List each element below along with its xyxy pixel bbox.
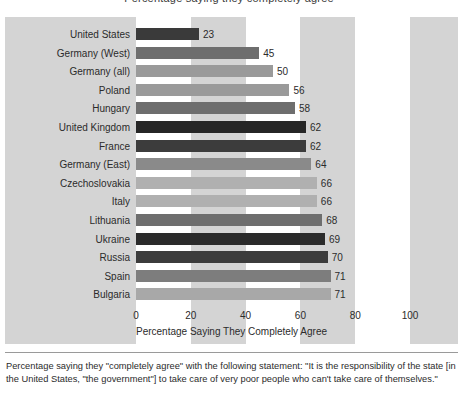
category-label: Poland (99, 84, 130, 97)
value-label: 66 (321, 177, 332, 190)
category-label: Czechoslovakia (60, 177, 130, 190)
bar (136, 28, 199, 40)
bar (136, 177, 317, 189)
footnote: Percentage saying they "completely agree… (6, 360, 456, 386)
value-label: 50 (277, 65, 288, 78)
bar-row: Spain71 (5, 270, 458, 282)
category-label: Hungary (92, 102, 130, 115)
category-label: Spain (104, 270, 130, 283)
plot-area: United States23Germany (West)45Germany (… (5, 17, 458, 344)
bar (136, 121, 306, 133)
x-axis-title: Percentage Saying They Completely Agree (5, 326, 458, 337)
value-label: 23 (203, 28, 214, 41)
category-label: Lithuania (89, 214, 130, 227)
bar (136, 251, 328, 263)
bar-row: Italy66 (5, 195, 458, 207)
bar (136, 158, 311, 170)
value-label: 45 (263, 47, 274, 60)
value-label: 62 (310, 121, 321, 134)
x-tick-label: 80 (335, 310, 375, 322)
category-label: Russia (99, 251, 130, 264)
bar-row: United States23 (5, 28, 458, 40)
value-label: 71 (335, 270, 346, 283)
value-label: 62 (310, 140, 321, 153)
value-label: 70 (332, 251, 343, 264)
bar-row: Poland56 (5, 84, 458, 96)
x-tick-label: 40 (226, 310, 266, 322)
category-label: United Kingdom (59, 121, 130, 134)
value-label: 68 (326, 214, 337, 227)
bar-row: Germany (all)50 (5, 65, 458, 77)
value-label: 66 (321, 195, 332, 208)
bar-row: Germany (West)45 (5, 47, 458, 59)
x-tick-label: 0 (116, 310, 156, 322)
value-label: 71 (335, 288, 346, 301)
value-label: 69 (329, 233, 340, 246)
category-label: Bulgaria (93, 288, 130, 301)
bar (136, 102, 295, 114)
category-label: France (99, 140, 130, 153)
chart-panel: United States23Germany (West)45Germany (… (5, 17, 458, 344)
bar (136, 140, 306, 152)
value-label: 56 (293, 84, 304, 97)
category-label: United States (70, 28, 130, 41)
bar (136, 65, 273, 77)
bar (136, 84, 289, 96)
chart-figure: Percentage saying they completely agree … (0, 0, 458, 396)
x-tick-label: 60 (280, 310, 320, 322)
category-label: Germany (East) (59, 158, 130, 171)
bar-row: Ukraine69 (5, 233, 458, 245)
bar (136, 195, 317, 207)
bar (136, 288, 331, 300)
category-label: Germany (West) (57, 47, 130, 60)
bar-row: Czechoslovakia66 (5, 177, 458, 189)
value-label: 64 (315, 158, 326, 171)
category-label: Ukraine (96, 233, 130, 246)
value-label: 58 (299, 102, 310, 115)
bar-row: Russia70 (5, 251, 458, 263)
bar (136, 214, 322, 226)
bar-row: Germany (East)64 (5, 158, 458, 170)
category-label: Germany (all) (69, 65, 130, 78)
bar (136, 270, 331, 282)
bar (136, 233, 325, 245)
bar-row: Lithuania68 (5, 214, 458, 226)
x-tick-label: 100 (390, 310, 430, 322)
x-tick-label: 20 (171, 310, 211, 322)
bar (136, 47, 259, 59)
clipped-title: Percentage saying they completely agree (0, 0, 458, 5)
bar-row: Bulgaria71 (5, 288, 458, 300)
bar-row: France62 (5, 140, 458, 152)
footnote-divider (5, 352, 458, 353)
category-label: Italy (112, 195, 130, 208)
bar-row: United Kingdom62 (5, 121, 458, 133)
bar-row: Hungary58 (5, 102, 458, 114)
